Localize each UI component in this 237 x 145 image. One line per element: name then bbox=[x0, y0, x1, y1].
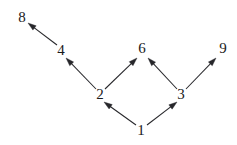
arrow-head-icon bbox=[104, 102, 112, 109]
edge-1-to-2 bbox=[104, 102, 136, 125]
arrow-head-icon bbox=[169, 102, 177, 109]
node-label-4: 4 bbox=[54, 43, 68, 58]
node-label-9: 9 bbox=[216, 41, 230, 56]
edge-line bbox=[151, 62, 177, 89]
node-label-2: 2 bbox=[93, 87, 107, 102]
edge-2-to-6 bbox=[105, 58, 137, 89]
edges-group bbox=[28, 23, 216, 125]
arrow-head-icon bbox=[28, 23, 36, 30]
edge-line bbox=[70, 62, 96, 89]
node-label-3: 3 bbox=[174, 87, 188, 102]
node-label-8: 8 bbox=[15, 10, 29, 25]
node-label-6: 6 bbox=[135, 41, 149, 56]
node-label-1: 1 bbox=[134, 123, 148, 138]
edge-line bbox=[108, 105, 136, 125]
graph-figure: 1234689 bbox=[0, 0, 237, 145]
edge-line bbox=[186, 62, 212, 89]
edge-3-to-6 bbox=[148, 58, 177, 89]
edge-line bbox=[105, 62, 133, 89]
edge-1-to-3 bbox=[147, 102, 177, 125]
graph-edges-layer bbox=[0, 0, 237, 145]
edge-3-to-9 bbox=[186, 58, 216, 89]
edge-line bbox=[147, 105, 173, 125]
edge-2-to-4 bbox=[66, 58, 96, 89]
edge-4-to-8 bbox=[28, 23, 57, 45]
